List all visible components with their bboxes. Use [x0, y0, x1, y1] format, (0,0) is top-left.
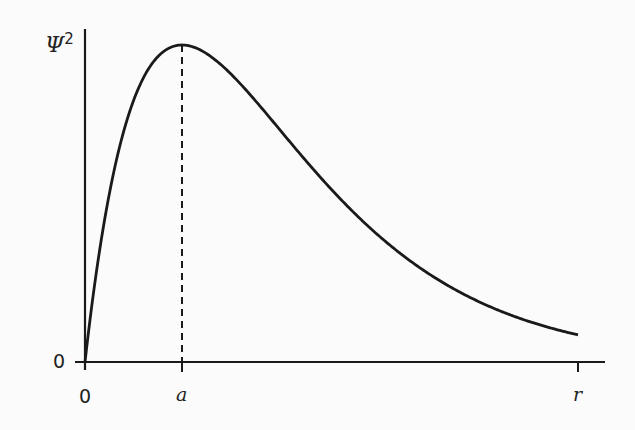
- superscript: 2: [64, 30, 74, 48]
- psi-symbol: Ψ: [45, 32, 64, 57]
- y-zero-label: 0: [53, 350, 65, 372]
- x-r-label: r: [573, 383, 582, 405]
- y-axis-label: Ψ2: [45, 30, 74, 57]
- psi-squared-curve: [85, 45, 578, 362]
- plot-area: [0, 0, 635, 430]
- x-a-label: a: [176, 383, 187, 405]
- x-zero-label: 0: [79, 385, 91, 407]
